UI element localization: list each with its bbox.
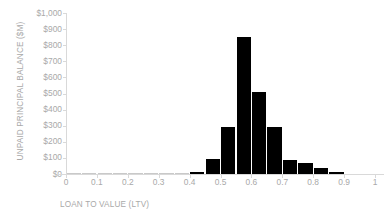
bar (237, 37, 251, 174)
x-axis-tick-label: 0 (51, 177, 81, 187)
y-axis-tick-label: $800 (20, 41, 62, 50)
y-axis-tick-mark (63, 94, 67, 95)
y-axis-tick-mark (63, 77, 67, 78)
bar (298, 163, 312, 174)
y-axis-tick-label: $900 (20, 25, 62, 34)
y-axis-tick-label: $700 (20, 57, 62, 66)
bar (67, 173, 81, 174)
bar (113, 173, 127, 174)
x-axis-tick-label: 0.7 (267, 177, 297, 187)
bar (252, 92, 266, 174)
bar (329, 172, 343, 174)
y-axis-tick-mark (63, 29, 67, 30)
x-axis-title: LOAN TO VALUE (LTV) (60, 200, 149, 209)
bar (221, 127, 235, 174)
y-axis-tick-label: $100 (20, 153, 62, 162)
y-axis-tick-mark (63, 142, 67, 143)
y-axis-tick-label: $300 (20, 121, 62, 130)
x-axis-tick-label: 1 (360, 177, 390, 187)
bar (190, 172, 204, 174)
bar (206, 159, 220, 174)
x-axis-tick-labels: 00.10.20.30.40.50.60.70.80.91 (66, 177, 386, 189)
x-axis-tick-label: 0.5 (206, 177, 236, 187)
bar (82, 173, 96, 174)
y-axis-tick-mark (63, 61, 67, 62)
y-axis-tick-label: $600 (20, 73, 62, 82)
y-axis-tick-labels: $0$100$200$300$400$500$600$700$800$900$1… (20, 0, 62, 224)
bar (144, 173, 158, 174)
y-axis-tick-label: $500 (20, 89, 62, 98)
bar (159, 173, 173, 174)
y-axis-tick-label: $200 (20, 137, 62, 146)
bar (314, 168, 328, 174)
plot-area (66, 13, 375, 174)
ltv-histogram-chart: UNPAID PRINCIPAL BALANCE ($M) $0$100$200… (0, 0, 391, 224)
bar (283, 160, 297, 174)
y-axis-tick-mark (63, 126, 67, 127)
y-axis-tick-mark (63, 158, 67, 159)
y-axis-tick-mark (63, 110, 67, 111)
bar (175, 173, 189, 174)
bar (128, 173, 142, 174)
x-axis-tick-label: 0.6 (236, 177, 266, 187)
y-axis-tick-mark (63, 45, 67, 46)
bar (267, 127, 281, 174)
y-axis-tick-label: $400 (20, 105, 62, 114)
x-axis-tick-label: 0.4 (175, 177, 205, 187)
x-axis-tick-label: 0.3 (144, 177, 174, 187)
x-axis-tick-label: 0.8 (298, 177, 328, 187)
x-axis-tick-label: 0.1 (82, 177, 112, 187)
y-axis-tick-label: $1,000 (20, 9, 62, 18)
x-axis-tick-label: 0.9 (329, 177, 359, 187)
y-axis-tick-mark (63, 13, 67, 14)
bar (98, 173, 112, 174)
x-axis-tick-label: 0.2 (113, 177, 143, 187)
